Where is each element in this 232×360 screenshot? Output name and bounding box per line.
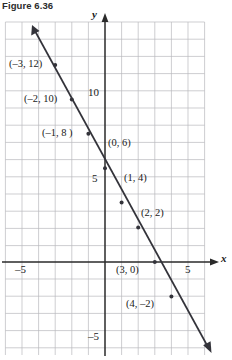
data-points <box>53 63 173 298</box>
data-point <box>86 132 90 136</box>
y-tick-label-neg5: –5 <box>88 330 99 342</box>
data-point <box>136 226 140 230</box>
x-tick-label-neg5: –5 <box>15 263 26 275</box>
y-tick-label-10: 10 <box>88 86 99 98</box>
data-point <box>169 294 173 298</box>
point-label-8: (4, –2) <box>126 298 154 309</box>
y-axis-arrow <box>102 13 109 22</box>
x-axis-label: x <box>221 252 227 264</box>
data-point <box>153 260 157 264</box>
point-label-2: (–2, 10) <box>24 93 57 104</box>
data-point <box>103 166 107 170</box>
coordinate-plane: y x 10 5 –5 –5 5 (–3, 12) (–2, 10) (–1, … <box>0 0 232 360</box>
point-label-6: (2, 2) <box>141 207 164 218</box>
graph-svg <box>0 0 232 360</box>
x-axis-arrow <box>210 259 219 266</box>
point-label-1: (–3, 12) <box>9 58 42 69</box>
point-label-3: (–1, 8 ) <box>42 127 73 138</box>
x-tick-label-5: 5 <box>185 263 191 275</box>
data-point <box>120 201 124 205</box>
point-label-5: (1, 4) <box>124 172 147 183</box>
y-axis-label: y <box>92 8 97 20</box>
data-point <box>53 63 57 67</box>
y-tick-label-5: 5 <box>92 172 98 184</box>
point-label-7: (3, 0) <box>116 264 139 275</box>
data-point <box>70 97 74 101</box>
point-label-4: (0, 6) <box>108 137 131 148</box>
